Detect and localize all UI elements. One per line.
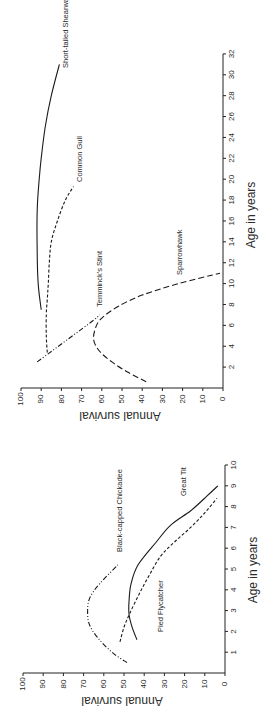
survival-tick-label: 0 xyxy=(218,396,227,401)
age-tick-label: 32 xyxy=(227,49,236,58)
upper-curves xyxy=(37,64,220,381)
series-line-short-tailed-shearwater xyxy=(37,64,59,309)
age-tick-label: 12 xyxy=(227,258,236,267)
survival-tick-label: 70 xyxy=(77,394,86,403)
survival-tick-label: 100 xyxy=(18,677,27,691)
survival-tick-label: 10 xyxy=(200,679,209,688)
survival-tick-label: 10 xyxy=(198,394,207,403)
age-tick-label: 9 xyxy=(229,483,238,488)
survival-tick-label: 60 xyxy=(99,679,108,688)
survival-tick-label: 50 xyxy=(119,679,128,688)
series-label-common-gull: Common Gull xyxy=(75,136,84,182)
upper-survival-axis-title: Annual survival xyxy=(79,409,160,423)
upper-survival-ticks: 0102030405060708090100 xyxy=(16,388,227,406)
age-tick-label: 16 xyxy=(227,216,236,225)
upper-age-axis-title: Age in years xyxy=(244,182,258,249)
lower-curves xyxy=(88,486,218,663)
age-tick-label: 4 xyxy=(227,343,236,348)
upper-series-labels: Short-tailed ShearwaterCommon GullTemmin… xyxy=(61,0,184,307)
age-tick-label: 20 xyxy=(227,174,236,183)
age-tick-label: 6 xyxy=(229,545,238,550)
series-label-short-tailed-shearwater: Short-tailed Shearwater xyxy=(61,0,70,68)
age-tick-label: 24 xyxy=(227,132,236,141)
age-tick-label: 30 xyxy=(227,70,236,79)
age-tick-label: 7 xyxy=(229,525,238,530)
age-tick-label: 8 xyxy=(227,302,236,307)
upper-panel: 2468101214161820222426283032 01020304050… xyxy=(16,0,258,423)
age-tick-label: 1 xyxy=(229,649,238,654)
age-tick-label: 5 xyxy=(229,566,238,571)
series-label-pied-flycatcher: Pied Flycatcher xyxy=(156,580,165,632)
survival-tick-label: 100 xyxy=(16,392,25,406)
age-tick-label: 26 xyxy=(227,112,236,121)
age-tick-label: 3 xyxy=(229,608,238,613)
series-line-black-capped-chickadee xyxy=(88,565,127,663)
survival-tick-label: 30 xyxy=(158,394,167,403)
series-line-common-gull xyxy=(46,187,73,353)
age-tick-label: 22 xyxy=(227,153,236,162)
lower-age-axis-title: Age in years xyxy=(246,537,260,604)
series-label-black-capped-chickadee: Black-capped Chickadee xyxy=(115,469,124,552)
age-tick-label: 10 xyxy=(229,460,238,469)
series-line-pied-flycatcher xyxy=(120,498,217,642)
age-tick-label: 14 xyxy=(227,237,236,246)
age-tick-label: 2 xyxy=(229,629,238,634)
survival-tick-label: 40 xyxy=(139,679,148,688)
survival-tick-label: 50 xyxy=(117,394,126,403)
upper-age-ticks: 2468101214161820222426283032 xyxy=(223,49,236,369)
series-label-temminck-s-stint: Temminck's Stint xyxy=(95,250,104,307)
survival-tick-label: 70 xyxy=(79,679,88,688)
series-line-great-tit xyxy=(129,486,218,640)
survival-tick-label: 20 xyxy=(180,679,189,688)
lower-survival-axis-title: Annual survival xyxy=(81,694,162,708)
survival-tick-label: 40 xyxy=(137,394,146,403)
survival-tick-label: 80 xyxy=(59,679,68,688)
lower-age-ticks: 12345678910 xyxy=(225,460,238,654)
survival-tick-label: 30 xyxy=(160,679,169,688)
age-tick-label: 6 xyxy=(227,323,236,328)
series-line-sparrowhawk xyxy=(94,273,220,382)
age-tick-label: 2 xyxy=(227,364,236,369)
age-tick-label: 4 xyxy=(229,587,238,592)
age-tick-label: 10 xyxy=(227,279,236,288)
lower-series-labels: Black-capped ChickadeeGreat TitPied Flyc… xyxy=(115,466,188,632)
survival-figure: 2468101214161820222426283032 01020304050… xyxy=(0,0,267,728)
survival-tick-label: 60 xyxy=(97,394,106,403)
lower-panel: 12345678910 0102030405060708090100 Age i… xyxy=(18,460,260,708)
survival-tick-label: 0 xyxy=(220,681,229,686)
age-tick-label: 18 xyxy=(227,195,236,204)
series-label-sparrowhawk: Sparrowhawk xyxy=(175,229,184,275)
survival-tick-label: 90 xyxy=(38,679,47,688)
lower-survival-ticks: 0102030405060708090100 xyxy=(18,673,229,691)
survival-tick-label: 80 xyxy=(57,394,66,403)
survival-tick-label: 90 xyxy=(36,394,45,403)
age-tick-label: 8 xyxy=(229,504,238,509)
series-label-great-tit: Great Tit xyxy=(179,466,188,496)
survival-tick-label: 20 xyxy=(178,394,187,403)
age-tick-label: 28 xyxy=(227,91,236,100)
